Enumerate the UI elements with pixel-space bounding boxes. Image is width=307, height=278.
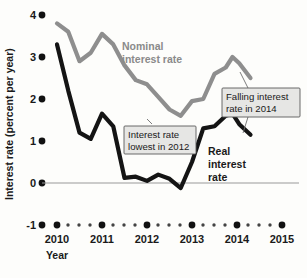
callout-lowest-2012-leader xyxy=(147,119,152,124)
y-tick-dot-1 xyxy=(39,138,46,145)
x-minor-dot xyxy=(201,223,204,226)
y-tick-dot-2 xyxy=(39,96,46,103)
x-axis-title: Year xyxy=(46,249,68,261)
x-minor-dot xyxy=(156,223,159,226)
chart-canvas: Interest rate (percent per year) 4 3 2 1… xyxy=(0,0,307,278)
series-label-nominal-line1: Nominal xyxy=(122,40,164,52)
y-tick-dot-4 xyxy=(39,12,46,19)
y-tick-label-2: 2 xyxy=(30,93,36,105)
series-label-nominal: Nominal interest rate xyxy=(122,40,182,65)
x-tick-dot-2010 xyxy=(54,222,61,229)
y-tick-dot-neg1 xyxy=(39,222,46,229)
x-tick-label-2010: 2010 xyxy=(45,233,69,245)
callout-falling-2014-line1: Falling interest xyxy=(226,91,289,102)
x-minor-dot xyxy=(246,223,249,226)
x-tick-label-2012: 2012 xyxy=(135,233,159,245)
interest-rate-chart: Interest rate (percent per year) 4 3 2 1… xyxy=(0,0,307,278)
x-tick-label-2013: 2013 xyxy=(180,233,204,245)
callout-lowest-2012-line2: lowest in 2012 xyxy=(128,141,189,152)
y-axis-title: Interest rate (percent per year) xyxy=(3,48,15,200)
series-label-real: Real interest rate xyxy=(208,145,246,183)
y-tick-label-1: 1 xyxy=(30,135,36,147)
series-label-nominal-line2: interest rate xyxy=(122,53,182,65)
x-minor-dot xyxy=(257,223,260,226)
x-minor-dot xyxy=(77,223,80,226)
x-minor-dot xyxy=(167,223,170,226)
y-tick-label-3: 3 xyxy=(30,51,36,63)
x-tick-label-2015: 2015 xyxy=(270,233,294,245)
x-tick-label-2014: 2014 xyxy=(225,233,250,245)
x-minor-dot xyxy=(133,223,136,226)
x-tick-dot-2015 xyxy=(279,222,286,229)
callout-lowest-2012-line1: Interest rate xyxy=(128,129,179,140)
y-tick-label-0: 0 xyxy=(30,177,36,189)
series-label-real-line2: interest xyxy=(208,158,246,170)
series-line-nominal xyxy=(57,23,251,115)
x-minor-dot xyxy=(223,223,226,226)
x-axis-labels: 2010 2011 2012 2013 2014 2015 xyxy=(45,233,294,245)
series-label-real-line3: rate xyxy=(208,171,227,183)
x-tick-dot-2014 xyxy=(234,222,241,229)
x-minor-dot xyxy=(212,223,215,226)
x-minor-dot xyxy=(88,223,91,226)
x-minor-dot xyxy=(268,223,271,226)
series-label-real-line1: Real xyxy=(208,145,230,157)
x-minor-dot xyxy=(111,223,114,226)
x-axis-ticks xyxy=(54,222,286,229)
callout-falling-2014: Falling interest rate in 2014 xyxy=(222,72,300,133)
x-minor-dot xyxy=(122,223,125,226)
x-tick-dot-2011 xyxy=(99,222,106,229)
y-axis-ticks: 4 3 2 1 0 -1 xyxy=(26,9,45,231)
x-minor-dot xyxy=(66,223,69,226)
y-tick-label-4: 4 xyxy=(30,9,37,21)
x-tick-dot-2012 xyxy=(144,222,151,229)
callout-lowest-2012: Interest rate lowest in 2012 xyxy=(124,119,196,154)
y-tick-label-neg1: -1 xyxy=(26,219,36,231)
x-tick-dot-2013 xyxy=(189,222,196,229)
callout-falling-2014-line2: rate in 2014 xyxy=(226,103,277,114)
x-minor-dot xyxy=(178,223,181,226)
x-tick-label-2011: 2011 xyxy=(90,233,114,245)
y-tick-dot-3 xyxy=(39,54,46,61)
